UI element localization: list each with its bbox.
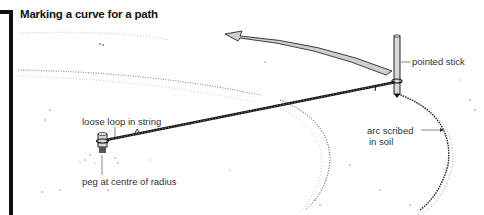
label-loose-loop: loose loop in string [82, 117, 161, 127]
figure-frame: Marking a curve for a path [0, 0, 484, 215]
label-peg: peg at centre of radius [82, 177, 177, 187]
label-arc-line1: arc scribed [367, 126, 413, 136]
arc-inner [280, 100, 330, 210]
label-arc-line2: in soil [369, 137, 393, 147]
pointed-stick-icon [392, 35, 402, 98]
label-pointed-stick: pointed stick [412, 57, 465, 67]
peg-icon [97, 133, 109, 154]
curved-arrow-icon [225, 31, 392, 75]
arc-outer [398, 94, 449, 210]
illustration [0, 0, 484, 215]
